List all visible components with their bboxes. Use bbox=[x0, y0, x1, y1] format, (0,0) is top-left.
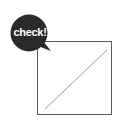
speech-bubble: check! bbox=[10, 14, 50, 54]
canvas: check! bbox=[0, 0, 120, 120]
bubble-label: check! bbox=[10, 25, 50, 39]
